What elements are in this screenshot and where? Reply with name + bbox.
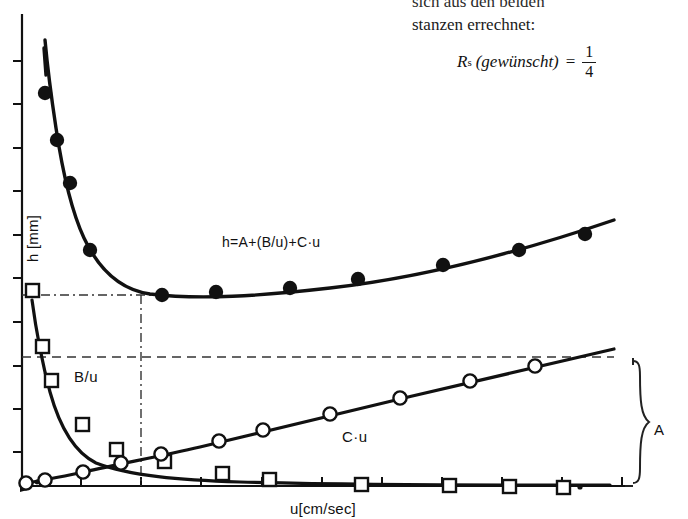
data-point (114, 456, 127, 469)
series-b-over-u-markers (26, 284, 570, 494)
a-term-brace (625, 358, 649, 486)
y-axis-ticks (13, 61, 22, 452)
data-point (577, 484, 582, 489)
data-point (256, 423, 269, 436)
series-h-total (38, 40, 614, 302)
data-point (76, 465, 89, 478)
data-point (283, 281, 297, 295)
equation-annotation: h=A+(B/u)+C·u (222, 234, 320, 250)
data-point (26, 284, 39, 297)
axes (20, 14, 626, 492)
b-over-u-annotation: B/u (74, 368, 98, 385)
x-axis-label: u[cm/sec] (290, 500, 356, 517)
data-point (19, 476, 32, 489)
data-point (578, 227, 592, 241)
data-point (50, 133, 64, 147)
data-point (212, 434, 225, 447)
data-point (35, 480, 40, 485)
data-point (355, 478, 368, 491)
data-point (216, 467, 229, 480)
data-point (436, 258, 450, 272)
data-point (38, 473, 51, 486)
data-point (83, 243, 97, 257)
data-point (36, 340, 49, 353)
data-point (503, 480, 516, 493)
data-point (528, 359, 541, 372)
brace-path (633, 361, 649, 483)
reference-lines (22, 295, 614, 486)
data-point (110, 443, 123, 456)
data-point (63, 176, 77, 190)
data-point (154, 447, 167, 460)
data-point (323, 407, 336, 420)
chart: h [mm] u[cm/sec] h=A+(B/u)+C·u B/u C·u A (0, 0, 688, 519)
series-h-total-markers (38, 86, 592, 302)
series-h-total-curve (45, 40, 614, 297)
data-point (263, 473, 276, 486)
data-point (45, 374, 58, 387)
data-point (209, 285, 223, 299)
y-axis-label: h [mm] (24, 199, 41, 279)
data-point (155, 288, 169, 302)
data-point (463, 374, 476, 387)
data-point (351, 272, 365, 286)
data-point (557, 481, 570, 494)
a-term-annotation: A (654, 421, 664, 438)
data-point (38, 86, 52, 100)
c-times-u-annotation: C·u (342, 428, 368, 445)
series-h-total-top-stub (44, 48, 46, 75)
data-point (512, 243, 526, 257)
data-point (443, 479, 456, 492)
data-point (393, 391, 406, 404)
data-point (76, 418, 89, 431)
